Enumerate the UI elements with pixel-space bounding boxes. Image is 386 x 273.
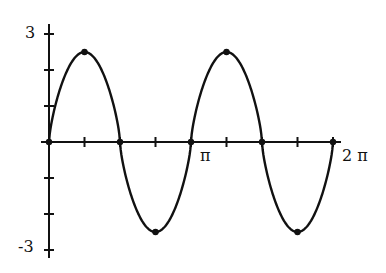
data-point [330,139,336,145]
x-label-pi: π [200,148,211,164]
data-point [188,139,194,145]
y-label-bottom: -3 [18,239,34,255]
data-point [46,139,52,145]
data-point [294,229,300,235]
data-point [259,139,265,145]
data-point [81,49,87,55]
data-point [152,229,158,235]
data-point [223,49,229,55]
x-label-2pi: 2 π [342,148,368,164]
chart-canvas [0,0,386,273]
data-point [117,139,123,145]
y-label-top: 3 [25,25,35,41]
